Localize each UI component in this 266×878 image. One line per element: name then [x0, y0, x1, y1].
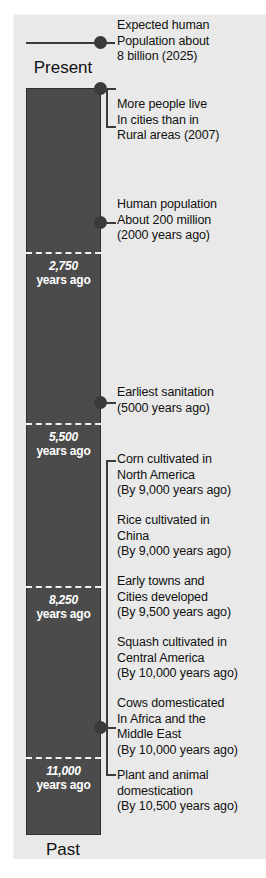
note-line: China — [117, 529, 231, 545]
note-line: Expected human — [117, 18, 209, 34]
leader-human-population — [106, 222, 116, 224]
note-line: In cities than in — [117, 113, 219, 129]
era-label-8250: 8,250 years ago — [26, 593, 101, 621]
note-line: Squash cultivated in — [117, 635, 238, 651]
note-line: Population about — [117, 34, 209, 50]
era-label-2750: 2,750 years ago — [26, 259, 101, 287]
note-line: Human population — [117, 197, 217, 213]
note-line: (5000 years ago) — [117, 401, 214, 417]
note-line: Earliest sanitation — [117, 385, 214, 401]
leader-urban-majority — [106, 126, 116, 128]
note-line: domestication — [117, 784, 238, 800]
note-urban-majority: More people live In cities than in Rural… — [117, 97, 219, 144]
note-line: (By 9,500 years ago) — [117, 605, 231, 621]
timeline-infographic: Expected human Population about 8 billio… — [0, 0, 266, 878]
note-line: Cows domesticated — [117, 696, 238, 712]
leader-earliest-sanitation — [106, 402, 116, 404]
note-line: (By 10,000 years ago) — [117, 743, 238, 759]
note-plant-animal-domestication: Plant and animal domestication (By 10,50… — [117, 768, 238, 815]
note-rice-china: Rice cultivated in China (By 9,000 years… — [117, 513, 231, 560]
marker-dot-expected-population — [94, 36, 107, 49]
note-line: Central America — [117, 651, 238, 667]
era-label-5500: 5,500 years ago — [26, 430, 101, 458]
note-line: Early towns and — [117, 574, 231, 590]
note-line: More people live — [117, 97, 219, 113]
note-cows-domesticated: Cows domesticated In Africa and the Midd… — [117, 696, 238, 758]
leader-cows-domesticated — [106, 727, 116, 729]
note-line: Rural areas (2007) — [117, 128, 219, 144]
era-divider-11000 — [26, 757, 101, 759]
era-label-value: 11,000 — [26, 764, 101, 778]
note-human-population: Human population About 200 million (2000… — [117, 197, 217, 244]
caption-present: Present — [13, 58, 113, 78]
note-line: In Africa and the — [117, 712, 238, 728]
note-earliest-sanitation: Earliest sanitation (5000 years ago) — [117, 385, 214, 416]
note-line: (By 9,000 years ago) — [117, 483, 231, 499]
note-line: About 200 million — [117, 213, 217, 229]
era-divider-2750 — [26, 252, 101, 254]
caption-past: Past — [13, 840, 113, 860]
note-expected-population: Expected human Population about 8 billio… — [117, 18, 209, 65]
note-line: (By 10,000 years ago) — [117, 666, 238, 682]
era-label-value: 8,250 — [26, 593, 101, 607]
era-label-unit: years ago — [26, 273, 101, 287]
present-rule — [26, 42, 100, 44]
note-line: (By 10,500 years ago) — [117, 799, 238, 815]
era-label-unit: years ago — [26, 444, 101, 458]
note-line: Corn cultivated in — [117, 452, 231, 468]
era-label-unit: years ago — [26, 778, 101, 792]
note-line: North America — [117, 468, 231, 484]
note-line: (By 9,000 years ago) — [117, 544, 231, 560]
timeline-bar — [26, 88, 101, 835]
era-label-value: 2,750 — [26, 259, 101, 273]
note-corn-north-america: Corn cultivated in North America (By 9,0… — [117, 452, 231, 499]
note-line: Rice cultivated in — [117, 513, 231, 529]
era-divider-5500 — [26, 423, 101, 425]
era-label-11000: 11,000 years ago — [26, 764, 101, 792]
note-line: Cities developed — [117, 590, 231, 606]
era-label-value: 5,500 — [26, 430, 101, 444]
note-line: Middle East — [117, 727, 238, 743]
note-line: Plant and animal — [117, 768, 238, 784]
note-early-towns-cities: Early towns and Cities developed (By 9,5… — [117, 574, 231, 621]
note-squash-central-america: Squash cultivated in Central America (By… — [117, 635, 238, 682]
era-label-unit: years ago — [26, 607, 101, 621]
note-line: 8 billion (2025) — [117, 49, 209, 65]
bracket-urban-majority — [106, 88, 116, 127]
era-divider-8250 — [26, 586, 101, 588]
note-line: (2000 years ago) — [117, 228, 217, 244]
